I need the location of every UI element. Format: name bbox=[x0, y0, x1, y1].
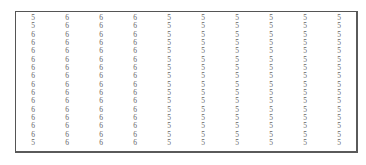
table-row: 5666555555 bbox=[16, 139, 356, 147]
table-body: 5666555555566655555566665555556666555555… bbox=[16, 14, 356, 148]
table-cell: 5 bbox=[288, 139, 322, 147]
table-cell: 6 bbox=[50, 139, 84, 147]
table-cell: 5 bbox=[152, 139, 186, 147]
table-cell: 6 bbox=[118, 139, 152, 147]
table-cell: 5 bbox=[220, 139, 254, 147]
table-cell: 5 bbox=[186, 139, 220, 147]
table-cell: 5 bbox=[16, 139, 50, 147]
table-cell: 6 bbox=[84, 139, 118, 147]
table-cell: 5 bbox=[254, 139, 288, 147]
value-table: 5666555555566655555566665555556666555555… bbox=[16, 14, 356, 148]
table-cell: 5 bbox=[322, 139, 356, 147]
table-frame: 5666555555566655555566665555556666555555… bbox=[15, 11, 358, 153]
